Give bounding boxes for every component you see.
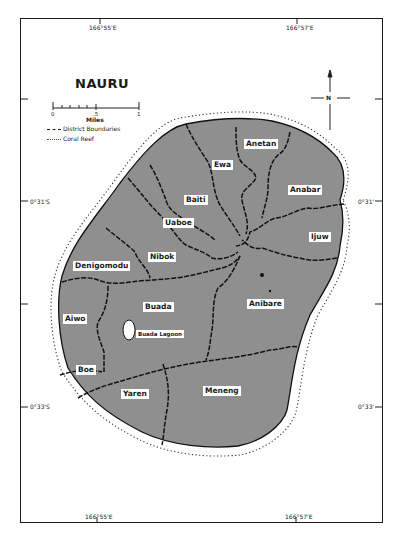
dashed-line-icon bbox=[47, 129, 61, 130]
district-label-meneng: Meneng bbox=[203, 386, 241, 396]
district-label-anibare: Anibare bbox=[247, 299, 284, 309]
compass-north-label: N bbox=[326, 94, 331, 101]
district-label-uaboe: Uaboe bbox=[163, 218, 194, 228]
legend-district-boundaries: District Boundaries bbox=[47, 125, 120, 132]
coord-top-left: 166°55'E bbox=[89, 24, 117, 31]
coord-right-upper: 0°31' bbox=[358, 198, 374, 205]
scale-tick-0: 0 bbox=[51, 111, 55, 117]
district-label-anabar: Anabar bbox=[288, 185, 322, 195]
district-label-ijuw: Ijuw bbox=[309, 232, 331, 242]
coord-bottom-right: 166°57'E bbox=[285, 513, 313, 520]
dotted-line-icon bbox=[47, 139, 61, 140]
scale-bar bbox=[53, 102, 139, 110]
district-label-boe: Boe bbox=[76, 365, 96, 375]
island-land bbox=[59, 119, 344, 447]
district-label-baiti: Baiti bbox=[184, 195, 208, 205]
coord-bottom-left: 166°55'E bbox=[85, 513, 113, 520]
district-label-nibok: Nibok bbox=[148, 252, 176, 262]
coord-left-upper: 0°31'S bbox=[30, 198, 50, 205]
coord-right-lower: 0°33' bbox=[358, 403, 374, 410]
island-map bbox=[0, 0, 400, 540]
district-label-buada: Buada bbox=[143, 302, 174, 312]
district-label-ewa: Ewa bbox=[212, 160, 233, 170]
district-label-denigomodu: Denigomodu bbox=[73, 261, 130, 271]
district-label-anetan: Anetan bbox=[244, 139, 278, 149]
district-label-aiwo: Aiwo bbox=[63, 314, 87, 324]
buada-lagoon-shape bbox=[123, 320, 135, 340]
map-title: NAURU bbox=[75, 76, 129, 91]
feature-label-buada-lagoon: Buada Lagoon bbox=[136, 330, 184, 338]
district-label-yaren: Yaren bbox=[121, 389, 149, 399]
scale-unit: Miles bbox=[86, 116, 104, 123]
coord-left-lower: 0°33'S bbox=[30, 403, 50, 410]
coord-top-right: 166°57'E bbox=[286, 24, 314, 31]
scale-tick-1: 1 bbox=[137, 111, 141, 117]
legend-coral-reef: Coral Reef bbox=[47, 135, 94, 142]
